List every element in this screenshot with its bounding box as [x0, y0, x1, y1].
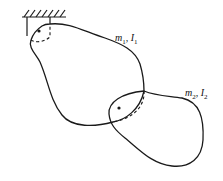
body1-label: m1, I1 [115, 33, 138, 46]
body-2 [109, 91, 203, 166]
body2-label: m2, I2 [185, 88, 208, 101]
fixed-support [22, 10, 66, 36]
pivot-2 [113, 91, 144, 122]
